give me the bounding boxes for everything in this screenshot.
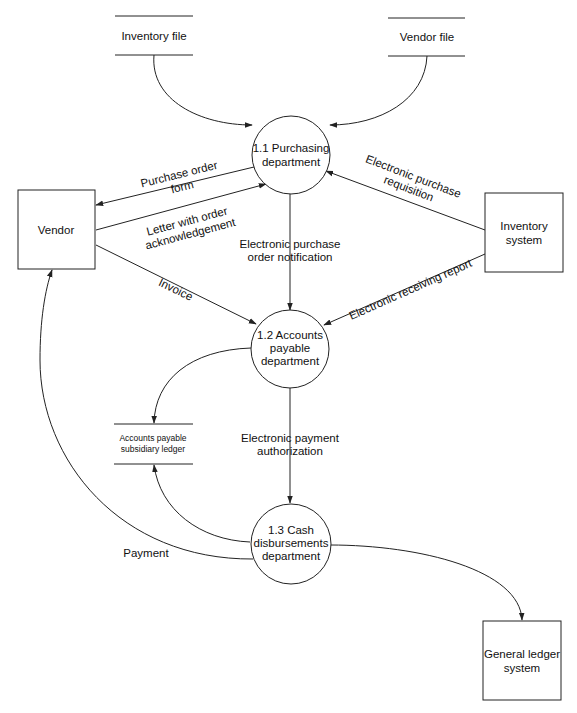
store-label-line-2: subsidiary ledger: [121, 444, 185, 454]
entity-label-line-1: General ledger: [484, 648, 560, 660]
flow-payment: [40, 270, 253, 559]
flow-ap-to-ledger: [154, 348, 251, 423]
svg-text:authorization: authorization: [257, 445, 323, 457]
store-ap-subsidiary-ledger: Accounts payable subsidiary ledger: [114, 424, 193, 464]
svg-text:Electronic payment: Electronic payment: [241, 432, 340, 444]
flow-label-payment: Payment: [123, 547, 169, 559]
flow-label-purchase-order-form: Purchase order form: [139, 159, 222, 202]
store-label: Vendor file: [400, 31, 454, 43]
store-label-line-1: Accounts payable: [119, 433, 186, 443]
entity-vendor: Vendor: [18, 190, 95, 269]
svg-text:order notification: order notification: [247, 251, 332, 263]
process-accounts-payable-department: 1.2 Accounts payable department: [251, 310, 329, 388]
flow-label-payment-authorization: Electronic payment authorization: [241, 432, 340, 457]
process-cash-disbursements-department: 1.3 Cash disbursements department: [251, 504, 331, 584]
entity-label-line-1: Inventory: [500, 220, 548, 232]
process-label-line-3: department: [262, 550, 321, 562]
flow-cash-to-ledger: [154, 465, 250, 542]
flow-inventory-file-to-purchasing: [154, 55, 252, 125]
flow-label-receiving-report: Electronic receiving report: [347, 257, 474, 322]
flow-vendor-file-to-purchasing: [330, 56, 427, 125]
store-inventory-file: Inventory file: [115, 16, 193, 55]
process-label-line-2: department: [262, 156, 321, 168]
store-label: Inventory file: [121, 30, 186, 42]
flow-label-purchase-requisition: Electronic purchase requisition: [359, 153, 462, 213]
entity-label-line-2: system: [506, 234, 542, 246]
process-purchasing-department: 1.1 Purchasing department: [252, 116, 330, 194]
entity-general-ledger-system: General ledger system: [483, 621, 561, 700]
flow-label-letter-acknowledgement: Letter with order acknowledgement: [141, 203, 238, 251]
process-label-line-3: department: [261, 355, 320, 367]
svg-text:Invoice: Invoice: [157, 276, 195, 303]
store-vendor-file: Vendor file: [388, 18, 465, 56]
process-label-line-1: 1.1 Purchasing: [253, 142, 330, 154]
flow-cash-to-general-ledger: [330, 545, 522, 620]
entity-label: Vendor: [38, 224, 75, 236]
svg-text:Payment: Payment: [123, 547, 169, 559]
svg-text:Electronic purchase: Electronic purchase: [240, 238, 341, 250]
flow-label-invoice: Invoice: [157, 276, 195, 303]
process-label-line-1: 1.2 Accounts: [257, 329, 323, 341]
svg-text:Electronic receiving report: Electronic receiving report: [347, 257, 474, 322]
flow-label-po-notification: Electronic purchase order notification: [240, 238, 341, 263]
process-label-line-2: disbursements: [254, 537, 329, 549]
data-flow-diagram: Inventory file Vendor file Accounts paya…: [0, 0, 577, 713]
process-label-line-1: 1.3 Cash: [268, 524, 314, 536]
process-label-line-2: payable: [270, 342, 310, 354]
entity-inventory-system: Inventory system: [485, 193, 563, 272]
entity-label-line-2: system: [504, 662, 540, 674]
